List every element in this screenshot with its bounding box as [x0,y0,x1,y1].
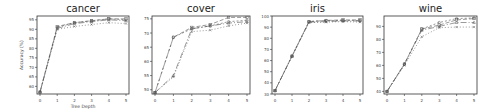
y-tick-label: 60 [144,59,150,64]
y-tick-label: 70 [144,31,150,36]
x-tick-label: 1 [56,98,59,103]
x-tick-label: 1 [291,98,294,103]
y-tick-label: 50 [144,87,150,92]
x-tick-label: 0 [274,98,277,103]
chart-panel-wine: wine012345405060708090 [376,3,477,103]
x-tick-label: 2 [308,98,311,103]
y-tick-label: 55 [144,73,150,78]
x-tick-label: 2 [73,98,76,103]
chart-title: wine [419,3,442,14]
x-tick-label: 0 [386,98,389,103]
y-tick-label: 30 [264,92,270,97]
chart-figure: cancer0123456065707580859095Tree DepthAc… [0,0,500,110]
y-tick-label: 85 [29,36,35,41]
x-axis-label: Tree Depth [70,104,96,109]
y-tick-label: 75 [144,16,150,21]
y-tick-label: 70 [376,50,382,55]
plot-area [37,16,129,94]
x-tick-label: 5 [359,98,362,103]
x-tick-label: 3 [209,98,212,103]
x-tick-label: 4 [342,98,345,103]
x-tick-label: 5 [125,98,128,103]
y-tick-label: 70 [264,47,270,52]
y-tick-label: 65 [144,45,150,50]
y-tick-label: 60 [29,84,35,89]
x-tick-label: 4 [108,98,111,103]
y-tick-label: 90 [376,24,382,29]
plot-area [384,16,477,94]
x-tick-label: 5 [473,98,476,103]
x-tick-label: 2 [421,98,424,103]
chart-panel-iris: iris01234530405060708090100 [261,3,363,103]
y-tick-label: 60 [264,58,270,63]
y-tick-label: 90 [264,25,270,30]
x-tick-label: 4 [455,98,458,103]
y-tick-label: 50 [376,76,382,81]
y-axis-label: Accuracy (%) [19,40,24,70]
y-tick-label: 80 [376,37,382,42]
x-tick-label: 0 [39,98,42,103]
chart-title: cover [187,3,216,14]
y-tick-label: 65 [29,74,35,79]
x-tick-label: 3 [90,98,93,103]
chart-panel-cover: cover012345505560657075 [144,3,250,103]
y-tick-label: 40 [264,80,270,85]
plot-area [272,16,363,94]
chart-panel-cancer: cancer0123456065707580859095Tree DepthAc… [19,3,129,109]
x-tick-label: 4 [227,98,230,103]
y-tick-label: 95 [29,17,35,22]
x-tick-label: 1 [172,98,175,103]
x-tick-label: 3 [325,98,328,103]
y-tick-label: 40 [376,89,382,94]
chart-title: iris [310,3,325,14]
y-tick-label: 80 [29,46,35,51]
y-tick-label: 50 [264,69,270,74]
x-tick-label: 5 [246,98,249,103]
chart-title: cancer [66,3,101,14]
x-tick-label: 1 [403,98,406,103]
x-tick-label: 0 [154,98,157,103]
y-tick-label: 60 [376,63,382,68]
y-tick-label: 70 [29,65,35,70]
x-tick-label: 2 [191,98,194,103]
y-tick-label: 75 [29,55,35,60]
x-tick-label: 3 [438,98,441,103]
y-tick-label: 90 [29,27,35,32]
y-tick-label: 100 [261,14,269,19]
y-tick-label: 80 [264,36,270,41]
